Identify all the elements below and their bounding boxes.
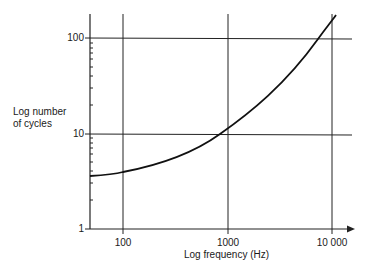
x-tick-label-100: 100 xyxy=(98,237,148,249)
gridline-y-100 xyxy=(85,38,352,39)
y-tick-label-1: 1 xyxy=(54,223,84,235)
x-tick-label-10000: 10 000 xyxy=(307,237,357,249)
y-axis-title-line1: Log number xyxy=(13,106,66,118)
y-tick-label-100: 100 xyxy=(54,32,84,44)
x-axis-title: Log frequency (Hz) xyxy=(184,249,269,261)
x-axis-arrow-icon xyxy=(347,226,355,233)
x-tick-label-1000: 1000 xyxy=(203,237,253,249)
y-tick-label-10: 10 xyxy=(54,128,84,140)
y-axis-title-line2: of cycles xyxy=(13,118,52,130)
